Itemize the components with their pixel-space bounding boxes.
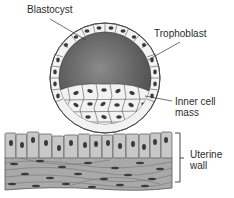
uterine-stroma (5, 157, 172, 190)
label-uterine-wall-line1: Uterine (190, 149, 222, 160)
label-inner-cell-mass-line2: mass (175, 107, 199, 118)
label-trophoblast: Trophoblast (154, 28, 206, 39)
uterine-wall-bracket (175, 133, 184, 182)
label-inner-cell-mass-line1: Inner cell (175, 96, 216, 107)
label-blastocyst: Blastocyst (27, 4, 73, 15)
uterine-epithelium (5, 132, 172, 158)
inner-cell-mass (55, 84, 155, 130)
label-uterine-wall-line2: wall (190, 160, 207, 171)
